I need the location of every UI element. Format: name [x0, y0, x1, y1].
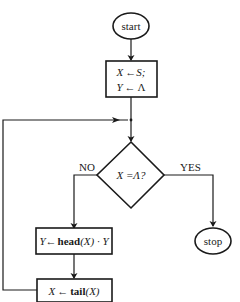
flowchart: start X←S; Y←Λ X =Λ? NO YES stop Y←head(… [0, 0, 240, 302]
edge-no [74, 175, 97, 228]
yes-label: YES [180, 161, 201, 173]
decision-label: X =Λ? [115, 169, 146, 181]
init-line1: X←S; [116, 66, 146, 78]
init-line2: Y←Λ [116, 81, 145, 93]
start-node: start [113, 13, 149, 39]
edge-loop-back [3, 120, 128, 290]
no-label: NO [79, 161, 95, 173]
stop-label: stop [204, 235, 223, 247]
init-node: X←S; Y←Λ [106, 61, 157, 97]
merge-point [130, 119, 133, 122]
decision-node: X =Λ? [97, 142, 164, 208]
start-label: start [122, 20, 141, 32]
head-label: Y←head(X) · Y [39, 235, 110, 248]
tail-node: X←tail(X) [37, 279, 112, 302]
stop-node: stop [195, 228, 231, 254]
edge-yes [164, 175, 213, 226]
head-node: Y←head(X) · Y [36, 228, 112, 254]
